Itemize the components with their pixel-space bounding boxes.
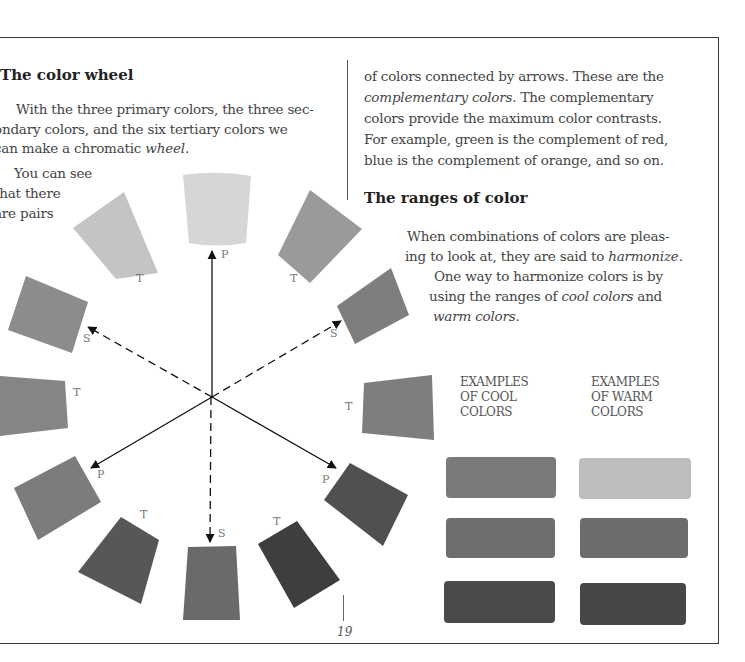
wheel-label-top-left: T: [136, 272, 143, 285]
wheel-swatch-bottom-right: [258, 521, 340, 608]
wheel-label-bottom: S: [218, 527, 226, 540]
arrow-secondary-upper-left: [88, 327, 212, 397]
wheel-swatch-lower-right: [324, 463, 408, 546]
wheel-label-lower-left: P: [97, 468, 104, 481]
wheel-label-lower-right: P: [322, 473, 329, 486]
wheel-label-left: T: [73, 386, 80, 399]
wheel-label-top-right: T: [290, 272, 297, 285]
page-number: 19: [337, 625, 352, 639]
wheel-label-top: P: [221, 248, 228, 261]
arrow-primary-lower-right: [212, 397, 336, 468]
wheel-label-bottom-left: T: [140, 508, 147, 521]
wheel-swatch-upper-left: [8, 276, 88, 353]
page-number-tick: [343, 595, 344, 621]
wheel-swatch-top-left: [73, 192, 158, 279]
wheel-swatch-right: [362, 375, 434, 440]
wheel-label-upper-left: S: [83, 332, 91, 345]
wheel-label-right: T: [345, 400, 352, 413]
color-wheel-diagram: [0, 0, 745, 662]
arrow-secondary-upper-right: [212, 321, 341, 397]
wheel-swatch-top-right: [278, 190, 362, 283]
wheel-swatch-top: [183, 173, 251, 246]
wheel-swatch-left: [0, 376, 68, 436]
arrow-primary-lower-left: [91, 397, 212, 468]
arrow-secondary-bottom: [210, 397, 211, 542]
wheel-label-upper-right: S: [330, 327, 338, 340]
wheel-swatch-bottom: [183, 546, 240, 620]
wheel-swatch-lower-left: [14, 456, 101, 540]
wheel-swatch-bottom-left: [78, 517, 159, 604]
wheel-swatch-upper-right: [337, 268, 409, 344]
wheel-label-bottom-right: T: [273, 515, 280, 528]
